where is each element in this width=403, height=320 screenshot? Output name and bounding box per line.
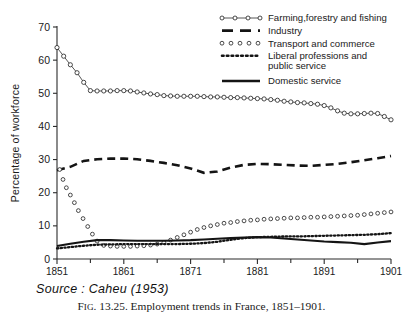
data-point xyxy=(336,214,340,218)
x-tick-label: 1881 xyxy=(246,266,269,277)
data-point xyxy=(195,228,199,232)
data-point xyxy=(382,211,386,215)
data-point xyxy=(76,209,80,213)
employment-trends-chart: 010203040506070Percentage of workforce 1… xyxy=(0,0,403,320)
data-point xyxy=(128,89,132,93)
data-point xyxy=(175,94,179,98)
data-point xyxy=(235,95,239,99)
data-point xyxy=(309,101,313,105)
y-tick-label: 10 xyxy=(38,219,50,231)
legend-item[interactable]: Farming,forestry and fishing xyxy=(220,12,387,23)
data-point xyxy=(235,220,239,224)
data-point xyxy=(389,118,393,122)
y-tick-label: 60 xyxy=(38,54,50,66)
y-tick-label: 30 xyxy=(38,153,50,165)
data-point xyxy=(329,106,333,110)
data-point xyxy=(86,225,90,229)
data-point xyxy=(295,100,299,104)
data-point xyxy=(222,95,226,99)
y-tick-label: 20 xyxy=(38,186,50,198)
data-point xyxy=(62,54,66,58)
legend-item[interactable]: Liberal professions andpublic service xyxy=(222,50,367,71)
y-tick-label: 70 xyxy=(38,21,50,33)
data-point xyxy=(356,213,360,217)
data-point xyxy=(269,97,273,101)
data-point xyxy=(64,186,68,190)
legend-item[interactable]: Industry xyxy=(222,25,302,36)
data-point xyxy=(229,95,233,99)
data-point xyxy=(58,168,62,172)
y-tick-label: 0 xyxy=(44,253,50,265)
data-point xyxy=(322,215,326,219)
data-point xyxy=(82,80,86,84)
data-point xyxy=(189,230,193,234)
y-tick-label: 40 xyxy=(38,120,50,132)
caption-text: . 13.25. Employment trends in France, 18… xyxy=(94,300,326,312)
data-point xyxy=(242,219,246,223)
data-point xyxy=(95,89,99,93)
data-point xyxy=(349,214,353,218)
data-point xyxy=(61,178,65,182)
data-point xyxy=(376,111,380,115)
data-point xyxy=(282,99,286,103)
data-point xyxy=(75,71,79,75)
figure-container: 010203040506070Percentage of workforce 1… xyxy=(0,0,403,320)
x-tick-label: 1861 xyxy=(113,266,136,277)
data-point xyxy=(335,109,339,113)
x-tick-label: 1851 xyxy=(46,266,69,277)
legend-item[interactable]: Transport and commerce xyxy=(220,38,375,49)
data-point xyxy=(155,93,159,97)
x-tick-label: 1901 xyxy=(380,266,403,277)
data-point xyxy=(262,217,266,221)
data-point xyxy=(249,218,253,222)
data-point xyxy=(222,221,226,225)
data-point xyxy=(362,111,366,115)
legend-label: Transport and commerce xyxy=(268,38,375,49)
data-point xyxy=(302,101,306,105)
y-tick-label: 50 xyxy=(38,87,50,99)
legend-label: public service xyxy=(268,60,326,71)
data-point xyxy=(376,211,380,215)
data-point xyxy=(108,89,112,93)
x-tick-label: 1891 xyxy=(313,266,336,277)
data-point xyxy=(329,215,333,219)
x-tick-label: 1871 xyxy=(179,266,202,277)
data-point xyxy=(249,96,253,100)
data-point xyxy=(209,95,213,99)
data-point xyxy=(182,94,186,98)
legend-item[interactable]: Domestic service xyxy=(222,75,341,86)
data-point xyxy=(168,94,172,98)
data-point xyxy=(72,201,76,205)
data-point xyxy=(342,214,346,218)
x-axis: 185118611871188118911901 xyxy=(46,259,403,277)
data-point xyxy=(342,111,346,115)
legend-swatch xyxy=(220,16,262,20)
data-point xyxy=(275,98,279,102)
data-point xyxy=(309,215,313,219)
data-point xyxy=(369,111,373,115)
legend-label: Farming,forestry and fishing xyxy=(268,12,387,23)
data-point xyxy=(202,95,206,99)
figure-caption: FIG. 13.25. Employment trends in France,… xyxy=(0,300,403,312)
legend-label: Industry xyxy=(268,25,302,36)
data-point xyxy=(68,63,72,67)
data-point xyxy=(122,89,126,93)
data-point xyxy=(282,216,286,220)
data-point xyxy=(215,223,219,227)
data-point xyxy=(389,210,393,214)
data-point xyxy=(135,90,139,94)
data-point xyxy=(302,216,306,220)
series-thick-dashed xyxy=(57,156,391,173)
data-point xyxy=(55,45,59,49)
data-point xyxy=(215,95,219,99)
series-line xyxy=(57,156,391,173)
data-point xyxy=(289,100,293,104)
y-axis-title: Percentage of workforce xyxy=(9,84,21,202)
data-point xyxy=(88,89,92,93)
data-point xyxy=(229,221,233,225)
legend-swatch xyxy=(220,41,260,45)
data-point xyxy=(262,97,266,101)
data-point xyxy=(322,103,326,107)
data-point xyxy=(91,232,95,236)
source-note: Source : Caheu (1953) xyxy=(36,282,169,296)
